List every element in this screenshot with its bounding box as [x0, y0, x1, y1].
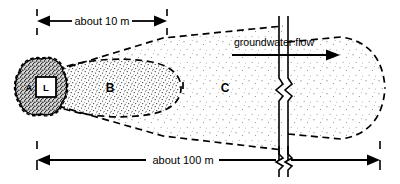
source-label-l: L	[43, 82, 49, 93]
groundwater-flow-label: groundwater flow	[234, 36, 314, 48]
plume-diagram-svg: about 10 m about 100 m groundwater flow …	[0, 0, 400, 184]
dimension-far-label: about 100 m	[152, 154, 213, 166]
dimension-far: about 100 m	[37, 141, 380, 177]
source-zone	[15, 57, 68, 116]
zone-c-label: C	[221, 81, 230, 95]
plume-figure: about 10 m about 100 m groundwater flow …	[0, 0, 400, 184]
source-label-a: A	[26, 82, 33, 93]
dimension-near: about 10 m	[37, 9, 167, 35]
zone-b-shape	[50, 59, 180, 117]
dimension-near-label: about 10 m	[74, 15, 129, 27]
zone-b-label: B	[106, 81, 115, 95]
